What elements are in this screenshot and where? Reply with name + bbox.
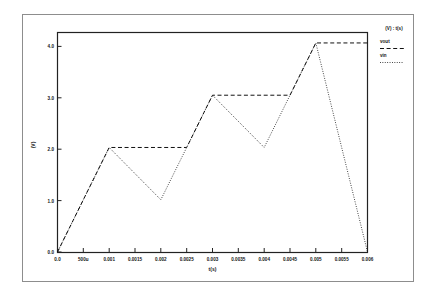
y-tick-label: 4.0 [48, 44, 55, 49]
y-axis-title: (V) [30, 141, 36, 148]
x-tick-label: 0.0 [54, 257, 61, 262]
x-tick-label: 500u [78, 257, 89, 262]
x-tick-label: 0.001 [103, 257, 115, 262]
x-tick-label: 0.002 [155, 257, 167, 262]
x-tick-label: 0.003 [207, 257, 219, 262]
plot-svg: 0.0 1.0 2.0 3.0 4.0 0.0 500u 0.001 0.001… [0, 0, 434, 297]
x-tick-label: 0.0025 [180, 257, 194, 262]
legend-label-vin: vin [380, 53, 387, 58]
y-tick-label: 2.0 [48, 147, 55, 152]
x-tick-label: 0.0045 [283, 257, 297, 262]
series-vout-line [58, 43, 368, 252]
x-tick-label: 0.0055 [335, 257, 349, 262]
series-vin-line [58, 43, 368, 252]
x-tick-label: 0.004 [258, 257, 270, 262]
x-tick-label: 0.006 [362, 257, 374, 262]
y-tick-label: 3.0 [48, 96, 55, 101]
x-tick-label: 0.0015 [128, 257, 142, 262]
x-tick-label: 0.005 [310, 257, 322, 262]
x-axis-title: t(s) [209, 266, 217, 272]
legend-header: (V) : t(s) [385, 26, 403, 31]
legend: (V) : t(s) vout vin [380, 26, 404, 63]
plot-frame [58, 33, 368, 253]
x-tick-label: 0.0035 [231, 257, 245, 262]
figure-canvas: 0.0 1.0 2.0 3.0 4.0 0.0 500u 0.001 0.001… [0, 0, 434, 297]
legend-label-vout: vout [380, 39, 390, 44]
y-tick-label: 1.0 [48, 199, 55, 204]
y-tick-label: 0.0 [48, 250, 55, 255]
x-axis-ticks [58, 248, 368, 253]
